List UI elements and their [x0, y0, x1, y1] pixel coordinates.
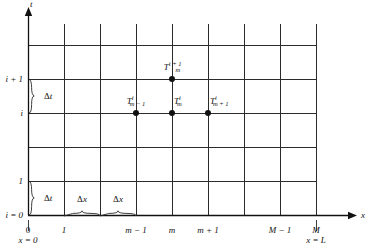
x-axis-label: x — [361, 211, 365, 220]
delta-x-right-label: Δx — [113, 195, 123, 204]
y-tick-label-3: i = 0 — [5, 211, 23, 220]
delta-t-lower-label: Δt — [44, 194, 52, 203]
x-tick-label-5: M − 1 — [269, 226, 292, 235]
delta-x-left-label: Δx — [77, 195, 87, 204]
x-tick-label-2: m − 1 — [125, 226, 147, 235]
node-T-m-plus-1-i-dot — [205, 110, 211, 116]
node-T-m-plus-1-i-label: Tim + 1 — [210, 95, 229, 107]
delta-t-upper — [29, 79, 34, 113]
y-tick-label-0: i + 1 — [5, 75, 23, 84]
boundary-label-0: x = 0 — [18, 236, 37, 245]
diagram-canvas — [0, 0, 371, 249]
x-tick-label-3: m — [169, 226, 176, 235]
node-T-m-minus-1-i-dot — [133, 110, 139, 116]
node-T-m-minus-1-i-label: Tim − 1 — [127, 95, 146, 107]
delta-t-lower — [29, 181, 34, 215]
x-axis-arrowhead — [348, 212, 357, 219]
node-T-m-i-dot — [169, 110, 175, 116]
y-axis-label: t — [30, 0, 33, 9]
y-tick-label-2: 1 — [19, 177, 24, 186]
x-tick-label-4: m + 1 — [197, 226, 219, 235]
x-tick-label-1: 1 — [62, 226, 67, 235]
y-tick-label-1: i — [20, 109, 23, 118]
grid-lines — [28, 24, 317, 216]
delta-t-upper-label: Δt — [44, 92, 52, 101]
node-T-m-i-label: Tim — [174, 95, 182, 107]
boundary-label-1: x = L — [306, 236, 326, 245]
finite-difference-grid-figure: xt01m − 1mm + 1M − 1Mi + 1i1i = 0ΔtΔtΔxΔ… — [0, 0, 371, 249]
node-T-m-i-plus-1-label: Ti + 1m — [164, 61, 181, 73]
node-T-m-i-plus-1-dot — [169, 76, 175, 82]
